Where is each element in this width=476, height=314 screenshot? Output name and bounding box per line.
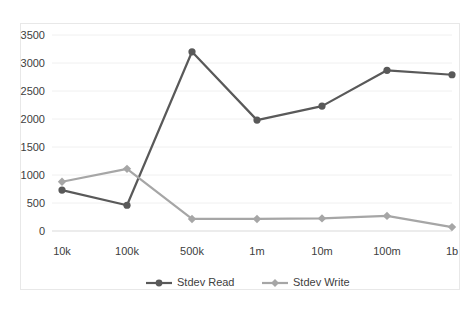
y-axis-tick-label: 3500 bbox=[21, 29, 45, 41]
data-point bbox=[448, 223, 456, 231]
data-point bbox=[188, 48, 195, 55]
series-line bbox=[62, 52, 452, 205]
x-axis-tick-label: 1b bbox=[446, 245, 458, 257]
y-axis-tick-label: 1500 bbox=[21, 141, 45, 153]
data-point bbox=[58, 187, 65, 194]
x-axis-tick-label: 10m bbox=[311, 245, 332, 257]
y-axis-tick-label: 2500 bbox=[21, 85, 45, 97]
x-axis-tick-label: 10k bbox=[53, 245, 71, 257]
legend-marker bbox=[271, 279, 279, 287]
legend-label: Stdev Write bbox=[293, 276, 350, 288]
x-axis-tick-labels: 10k100k500k1m10m100m1b bbox=[53, 245, 458, 257]
x-axis-tick-label: 1m bbox=[249, 245, 264, 257]
data-point bbox=[253, 215, 261, 223]
data-point bbox=[383, 212, 391, 220]
data-point bbox=[383, 67, 390, 74]
y-axis-tick-labels: 0500100015002000250030003500 bbox=[21, 29, 45, 237]
legend-item-stdev-write[interactable]: Stdev Write bbox=[262, 276, 350, 288]
data-point bbox=[318, 103, 325, 110]
y-axis-tick-label: 1000 bbox=[21, 169, 45, 181]
chart-legend: Stdev ReadStdev Write bbox=[146, 276, 350, 288]
y-axis-tick-label: 0 bbox=[39, 225, 45, 237]
data-point bbox=[318, 214, 326, 222]
x-axis-tick-label: 100m bbox=[373, 245, 401, 257]
y-axis-tick-label: 3000 bbox=[21, 57, 45, 69]
legend-marker bbox=[156, 280, 163, 287]
chart-svg: 0500100015002000250030003500 10k100k500k… bbox=[0, 0, 476, 314]
legend-label: Stdev Read bbox=[177, 276, 234, 288]
data-point bbox=[448, 71, 455, 78]
chart-container: 0500100015002000250030003500 10k100k500k… bbox=[0, 0, 476, 314]
data-point bbox=[58, 178, 66, 186]
data-series-group bbox=[58, 48, 456, 231]
data-point bbox=[123, 202, 130, 209]
data-point bbox=[253, 117, 260, 124]
x-axis-tick-label: 500k bbox=[180, 245, 204, 257]
y-axis-tick-label: 2000 bbox=[21, 113, 45, 125]
legend-item-stdev-read[interactable]: Stdev Read bbox=[146, 276, 234, 288]
series-stdev-read bbox=[58, 48, 455, 209]
x-axis-tick-label: 100k bbox=[115, 245, 139, 257]
y-axis-tick-label: 500 bbox=[27, 197, 45, 209]
